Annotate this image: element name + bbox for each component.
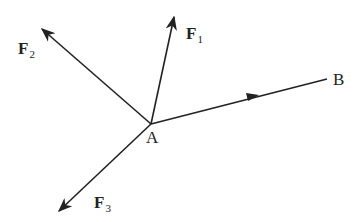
label-b: B	[333, 71, 344, 88]
label-a: A	[146, 129, 158, 146]
vector-f1	[151, 17, 174, 124]
label-f3: F3	[94, 194, 111, 211]
label-f1: F1	[186, 25, 203, 42]
label-f2: F2	[18, 40, 35, 57]
vector-f2	[42, 29, 151, 124]
line-ab	[151, 79, 327, 124]
force-diagram	[0, 0, 358, 222]
